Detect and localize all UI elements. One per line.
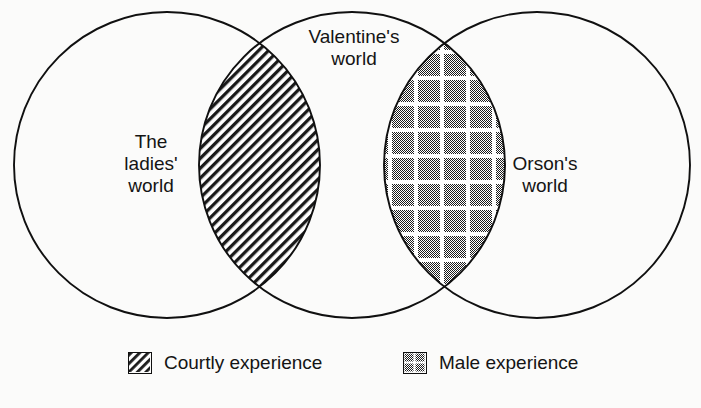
legend-item-male-experience: Male experience [403, 352, 578, 374]
legend-item-courtly-experience: Courtly experience [128, 352, 322, 374]
legend: Courtly experience [0, 352, 701, 396]
set-label-ladies-world: The ladies' world [97, 131, 205, 197]
checkered-grid-swatch-icon [403, 352, 427, 374]
set-label-valentines-world: Valentine's world [284, 26, 424, 70]
set-label-orsons-world: Orson's world [482, 153, 608, 197]
venn-diagram-page: The ladies' world Valentine's world Orso… [0, 0, 701, 408]
legend-label-male-experience: Male experience [439, 352, 578, 374]
diagonal-hatch-swatch-icon [128, 352, 152, 374]
legend-label-courtly-experience: Courtly experience [164, 352, 322, 374]
